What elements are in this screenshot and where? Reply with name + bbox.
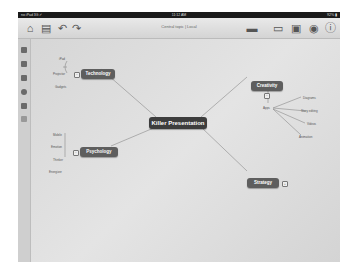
page-icon[interactable] xyxy=(21,47,27,53)
topic-psychology[interactable]: Psychology xyxy=(80,147,118,157)
grid-icon[interactable] xyxy=(21,116,27,122)
topic-technology[interactable]: Technology xyxy=(81,69,115,79)
link-icon[interactable]: ▬ xyxy=(246,22,258,34)
leaf-apps[interactable]: Apps xyxy=(263,106,270,110)
topic-strategy[interactable]: Strategy xyxy=(247,178,279,188)
leaf-energizer[interactable]: Energizer xyxy=(49,170,62,174)
template-icon[interactable] xyxy=(21,103,27,109)
leaf-projector[interactable]: Projector xyxy=(53,72,65,76)
leaf-story-editing[interactable]: Story editing xyxy=(301,109,318,113)
leaf-mobile[interactable]: Mobile xyxy=(53,133,62,137)
note-icon[interactable]: ▭ xyxy=(272,22,284,34)
leaf-gadgets[interactable]: Gadgets xyxy=(55,85,66,89)
toolbar: ⌂ ▤ ↶ ↷ Central topic | Local ▬ ▭ ▣ ◉ ⓘ xyxy=(18,18,340,39)
collapse-toggle[interactable]: − xyxy=(73,150,79,156)
leaf-videos[interactable]: Videos xyxy=(307,122,316,126)
globe-icon[interactable] xyxy=(21,89,27,95)
leaf-animation[interactable]: Animation xyxy=(299,135,312,139)
layout-icon[interactable] xyxy=(21,61,27,67)
leaf-emotion[interactable]: Emotion xyxy=(51,145,62,149)
leaf-diagrams[interactable]: Diagrams xyxy=(303,96,316,100)
central-topic[interactable]: Killer Presentation xyxy=(149,117,207,129)
topic-creativity[interactable]: Creativity xyxy=(251,81,283,91)
leaf-thinker[interactable]: Thinker xyxy=(53,158,63,162)
collapse-toggle[interactable]: − xyxy=(74,72,80,78)
expand-toggle[interactable]: + xyxy=(282,181,288,187)
share-icon[interactable]: ▣ xyxy=(290,22,302,34)
ipad-screen: no iPad 3G ✓ 11:12 AM 92% ▮ ⌂ ▤ ↶ ↷ Cent… xyxy=(18,12,340,262)
image-icon[interactable] xyxy=(21,75,27,81)
collapse-toggle[interactable]: − xyxy=(264,93,270,99)
left-sidebar xyxy=(18,39,31,262)
leaf-ipad[interactable]: iPad xyxy=(59,57,65,61)
info-icon[interactable]: ⓘ xyxy=(324,22,336,34)
mindmap-canvas[interactable]: Killer Presentation Technology − iPad Pr… xyxy=(31,39,340,262)
theme-icon[interactable]: ◉ xyxy=(308,22,320,34)
